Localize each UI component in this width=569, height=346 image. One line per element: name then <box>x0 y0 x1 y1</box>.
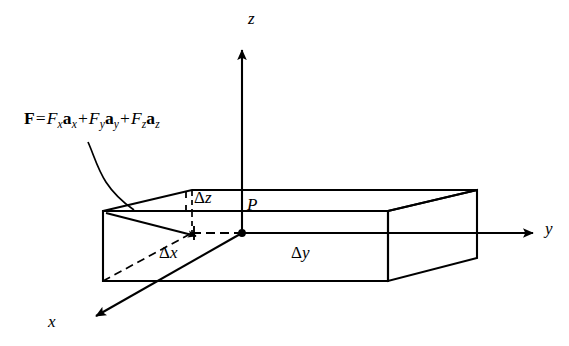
box-edge-hidden-back-left-diagonal <box>103 233 192 281</box>
delta-x-variable: x <box>170 243 178 262</box>
box-top-face <box>103 190 477 211</box>
equation-plus-1: + <box>77 108 89 128</box>
force-vector-arrow <box>106 213 196 236</box>
term-2-coef-sub: z <box>142 118 147 130</box>
dimension-label-delta-y: Δy <box>291 244 309 261</box>
force-vector-equation: F=Fxax+Fyay+Fzaz <box>24 110 160 128</box>
term-2-coef: F <box>131 108 142 128</box>
term-0-unit-sub: x <box>72 118 77 130</box>
axis-label-y: y <box>545 220 553 237</box>
equation-equals: = <box>35 108 47 128</box>
term-1-unit: a <box>105 108 114 128</box>
point-label-p: P <box>247 196 257 213</box>
delta-y-symbol: Δ <box>291 243 302 262</box>
axis-label-z: z <box>248 10 255 27</box>
force-leader-curve <box>88 142 134 210</box>
box-right-face <box>388 190 477 281</box>
equation-lhs: F <box>24 108 35 128</box>
term-1-coef-sub: y <box>100 118 105 130</box>
diagram-vector-graphics <box>0 0 569 346</box>
term-1-unit-sub: y <box>114 118 119 130</box>
volume-element-box <box>103 190 477 281</box>
term-2-unit-sub: z <box>155 118 160 130</box>
term-0-unit: a <box>63 108 72 128</box>
figure-canvas: z y x P Δz Δx Δy F=Fxax+Fyay+Fzaz <box>0 0 569 346</box>
delta-z-variable: z <box>205 188 212 207</box>
delta-x-symbol: Δ <box>159 243 170 262</box>
dimension-label-delta-x: Δx <box>159 244 177 261</box>
term-0-coef-sub: x <box>58 118 63 130</box>
term-1-coef: F <box>89 108 100 128</box>
delta-z-symbol: Δ <box>194 188 205 207</box>
box-front-face <box>103 211 388 281</box>
point-p-marker <box>238 229 246 237</box>
dimension-label-delta-z: Δz <box>194 189 212 206</box>
delta-z-guide <box>186 191 192 212</box>
axis-label-x: x <box>48 313 56 330</box>
equation-plus-2: + <box>119 108 131 128</box>
delta-y-variable: y <box>302 243 310 262</box>
term-2-unit: a <box>146 108 155 128</box>
term-0-coef: F <box>47 108 58 128</box>
